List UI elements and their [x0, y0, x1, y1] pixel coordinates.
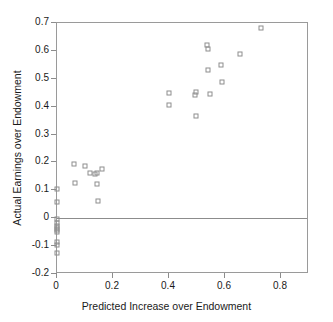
- data-point: [194, 113, 199, 118]
- x-axis-tick-label: 0.8: [273, 281, 287, 291]
- data-point: [99, 167, 104, 172]
- x-axis-tick-mark: [224, 273, 225, 278]
- data-point: [166, 91, 171, 96]
- y-axis-tick-label: -0.1: [0, 240, 49, 250]
- data-point: [207, 91, 212, 96]
- y-axis-tick-label: 0: [0, 212, 49, 222]
- y-axis-tick-label: 0.5: [0, 73, 49, 83]
- y-axis-tick-label: 0.3: [0, 129, 49, 139]
- data-point: [259, 26, 264, 31]
- data-point: [72, 162, 77, 167]
- data-point: [237, 52, 242, 57]
- data-point: [218, 63, 223, 68]
- data-point: [219, 80, 224, 85]
- scatter-plot-figure: 0.70.60.50.40.30.20.10-0.1-0.2 00.20.40.…: [0, 0, 333, 322]
- data-point: [72, 180, 77, 185]
- data-point: [55, 243, 60, 248]
- x-axis-tick-label: 0: [53, 281, 59, 291]
- data-point: [94, 182, 99, 187]
- x-axis-tick-label: 0.4: [161, 281, 175, 291]
- y-axis-tick-label: 0.6: [0, 45, 49, 55]
- data-point: [83, 163, 88, 168]
- data-point: [55, 186, 60, 191]
- y-axis-title: Actual Earnings over Endowment: [11, 28, 23, 268]
- data-point: [205, 46, 210, 51]
- zero-reference-line: [57, 218, 307, 219]
- data-point: [95, 198, 100, 203]
- x-axis-tick-mark: [280, 273, 281, 278]
- x-axis-tick-label: 0.2: [105, 281, 119, 291]
- data-point: [55, 200, 60, 205]
- x-axis-title: Predicted Increase over Endowment: [0, 300, 333, 312]
- y-axis-tick-label: -0.2: [0, 268, 49, 278]
- y-axis-tick-label: 0.2: [0, 156, 49, 166]
- data-point: [167, 102, 172, 107]
- x-axis-tick-mark: [112, 273, 113, 278]
- data-point: [193, 90, 198, 95]
- data-point: [206, 67, 211, 72]
- plot-area: [56, 22, 308, 273]
- x-axis-tick-mark: [56, 273, 57, 278]
- x-axis-tick-label: 0.6: [217, 281, 231, 291]
- data-point: [55, 250, 60, 255]
- x-axis-tick-mark: [168, 273, 169, 278]
- y-axis-tick-label: 0.1: [0, 184, 49, 194]
- data-point: [55, 229, 60, 234]
- y-axis-tick-label: 0.4: [0, 101, 49, 111]
- y-axis-tick-label: 0.7: [0, 17, 49, 27]
